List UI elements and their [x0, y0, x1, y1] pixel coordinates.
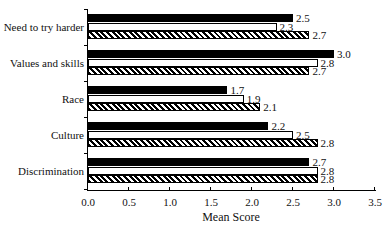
category-label: Need to try harder	[4, 21, 84, 33]
x-axis-label: Mean Score	[202, 210, 260, 225]
value-label: 2.8	[321, 174, 335, 184]
value-label: 2.8	[321, 138, 335, 148]
x-tick	[333, 187, 334, 191]
category-label: Values and skills	[10, 57, 84, 69]
category-label: Race	[62, 93, 84, 105]
value-label: 2.5	[296, 13, 310, 23]
x-tick-label: 1.0	[163, 196, 177, 208]
x-tick	[292, 187, 293, 191]
x-tick-label: 3.5	[368, 196, 382, 208]
value-label: 2.1	[263, 102, 277, 112]
y-tick	[84, 117, 87, 118]
category-label: Culture	[51, 129, 84, 141]
bar	[88, 122, 268, 130]
x-tick	[210, 187, 211, 191]
value-label: 3.0	[337, 49, 351, 59]
bar	[88, 67, 309, 75]
bar	[88, 23, 277, 31]
x-tick-label: 1.5	[204, 196, 218, 208]
x-tick-label: 2.0	[245, 196, 259, 208]
x-tick	[251, 187, 252, 191]
bar	[88, 175, 318, 183]
bar-chart: 0.00.51.01.52.02.53.03.5Need to try hard…	[0, 0, 387, 226]
x-tick	[87, 187, 88, 191]
value-label: 2.5	[296, 130, 310, 140]
y-tick	[84, 189, 87, 190]
x-tick-label: 0.0	[81, 196, 95, 208]
value-label: 1.9	[247, 94, 261, 104]
bar	[88, 103, 260, 111]
bar	[88, 31, 309, 39]
y-tick	[84, 9, 87, 10]
x-tick	[169, 187, 170, 191]
y-tick	[84, 81, 87, 82]
bar	[88, 14, 293, 22]
x-tick-label: 0.5	[122, 196, 136, 208]
value-label: 1.7	[230, 85, 244, 95]
value-label: 2.7	[312, 66, 326, 76]
bar	[88, 139, 318, 147]
y-tick	[84, 153, 87, 154]
x-tick-label: 2.5	[286, 196, 300, 208]
category-label: Discrimination	[18, 165, 84, 177]
x-tick	[128, 187, 129, 191]
bar	[88, 158, 309, 166]
bar	[88, 167, 318, 175]
x-tick-label: 3.0	[327, 196, 341, 208]
bar	[88, 50, 334, 58]
bar	[88, 95, 244, 103]
value-label: 2.7	[312, 30, 326, 40]
bar	[88, 131, 293, 139]
bar	[88, 59, 318, 67]
value-label: 2.2	[271, 121, 285, 131]
y-tick	[84, 45, 87, 46]
x-tick	[374, 187, 375, 191]
value-label: 2.3	[280, 22, 294, 32]
bar	[88, 86, 227, 94]
